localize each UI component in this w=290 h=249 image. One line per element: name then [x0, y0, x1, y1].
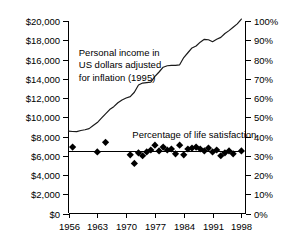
chart-annotations: Personal income inUS dollars adjustedfor… — [79, 47, 257, 140]
chart-canvas: $0$2,000$4,000$6,000$8,000$10,000$12,000… — [0, 0, 290, 249]
right-tick-label: 90% — [254, 35, 274, 46]
left-tick-label: $10,000 — [26, 112, 60, 123]
left-axis-ticks — [63, 22, 69, 215]
left-tick-label: $6,000 — [31, 151, 60, 162]
left-tick-label: $12,000 — [26, 93, 60, 104]
x-tick-label: 1956 — [59, 221, 80, 232]
x-tick-label: 1991 — [203, 221, 224, 232]
left-tick-label: $0 — [49, 209, 60, 220]
right-tick-label: 70% — [254, 74, 274, 85]
income-annotation-line: Personal income in — [79, 47, 160, 58]
right-tick-label: 50% — [254, 112, 274, 123]
right-tick-label: 60% — [254, 93, 274, 104]
right-axis-ticks — [246, 22, 252, 215]
satisfaction-data-point — [102, 139, 109, 146]
left-tick-label: $20,000 — [26, 16, 60, 27]
satisfaction-data-point — [180, 151, 187, 158]
left-tick-label: $8,000 — [31, 132, 60, 143]
x-tick-label: 1977 — [145, 221, 166, 232]
left-axis-tick-labels: $0$2,000$4,000$6,000$8,000$10,000$12,000… — [26, 16, 60, 220]
right-tick-label: 40% — [254, 132, 274, 143]
left-tick-label: $14,000 — [26, 74, 60, 85]
easterlin-paradox-chart: $0$2,000$4,000$6,000$8,000$10,000$12,000… — [0, 0, 290, 249]
left-tick-label: $18,000 — [26, 35, 60, 46]
satisfaction-data-point — [131, 160, 138, 167]
life-satisfaction-scatter-points — [69, 139, 245, 167]
right-tick-label: 0% — [254, 209, 268, 220]
satisfaction-annotation-line: Percentage of life satisfaction — [132, 129, 256, 140]
income-annotation-line: for inflation (1995) — [79, 72, 156, 83]
right-tick-label: 80% — [254, 55, 274, 66]
satisfaction-data-point — [69, 143, 76, 150]
left-tick-label: $2,000 — [31, 189, 60, 200]
x-tick-label: 1970 — [116, 221, 137, 232]
satisfaction-data-point — [176, 142, 183, 149]
left-tick-label: $4,000 — [31, 170, 60, 181]
left-tick-label: $16,000 — [26, 55, 60, 66]
x-tick-label: 1998 — [231, 221, 252, 232]
right-tick-label: 30% — [254, 151, 274, 162]
right-tick-label: 20% — [254, 170, 274, 181]
satisfaction-data-point — [238, 147, 245, 154]
right-tick-label: 100% — [254, 16, 279, 27]
x-axis-ticks — [70, 214, 242, 219]
right-axis-tick-labels: 0%10%20%30%40%50%60%70%80%90%100% — [254, 16, 279, 220]
income-annotation-line: US dollars adjusted — [79, 59, 161, 70]
x-tick-label: 1984 — [174, 221, 195, 232]
satisfaction-data-point — [94, 148, 101, 155]
satisfaction-data-point — [127, 151, 134, 158]
right-tick-label: 10% — [254, 189, 274, 200]
x-axis-tick-labels: 1956196319701977198419911998 — [59, 221, 252, 232]
x-tick-label: 1963 — [87, 221, 108, 232]
satisfaction-data-point — [151, 142, 158, 149]
